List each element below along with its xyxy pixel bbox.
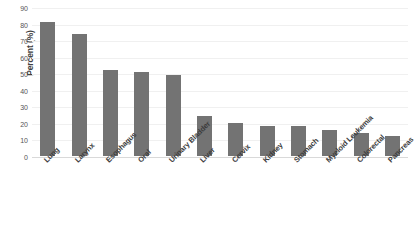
bar	[134, 72, 149, 156]
y-tick-label-20: 20	[20, 120, 28, 127]
y-tick-label-50: 50	[20, 71, 28, 78]
x-axis-labels-group: LungLarynxEsophagusOralUrinary BladderLi…	[32, 158, 408, 237]
y-tick-label-90: 90	[20, 5, 28, 12]
bar	[40, 22, 55, 156]
bar	[103, 70, 118, 156]
y-tick-label-10: 10	[20, 137, 28, 144]
y-tick-label-80: 80	[20, 21, 28, 28]
y-tick-label-60: 60	[20, 54, 28, 61]
bar	[72, 34, 87, 157]
bar	[166, 75, 181, 156]
y-tick-label-40: 40	[20, 87, 28, 94]
y-tick-label-0: 0	[24, 154, 28, 161]
y-tick-label-30: 30	[20, 104, 28, 111]
y-tick-label-70: 70	[20, 38, 28, 45]
